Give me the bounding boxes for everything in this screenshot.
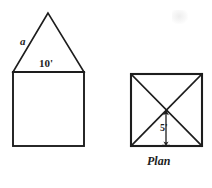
house-elevation-group <box>13 13 84 146</box>
plan-caption: Plan <box>147 155 170 167</box>
plan-group <box>131 74 202 146</box>
house-body-square <box>13 72 84 146</box>
roof-side-label-a: a <box>20 36 26 47</box>
geometry-figure: a 10' 5' Plan <box>0 0 212 188</box>
base-width-label: 10' <box>39 58 53 69</box>
geometry-drawing <box>0 0 212 188</box>
plan-half-width-label: 5' <box>160 123 168 133</box>
